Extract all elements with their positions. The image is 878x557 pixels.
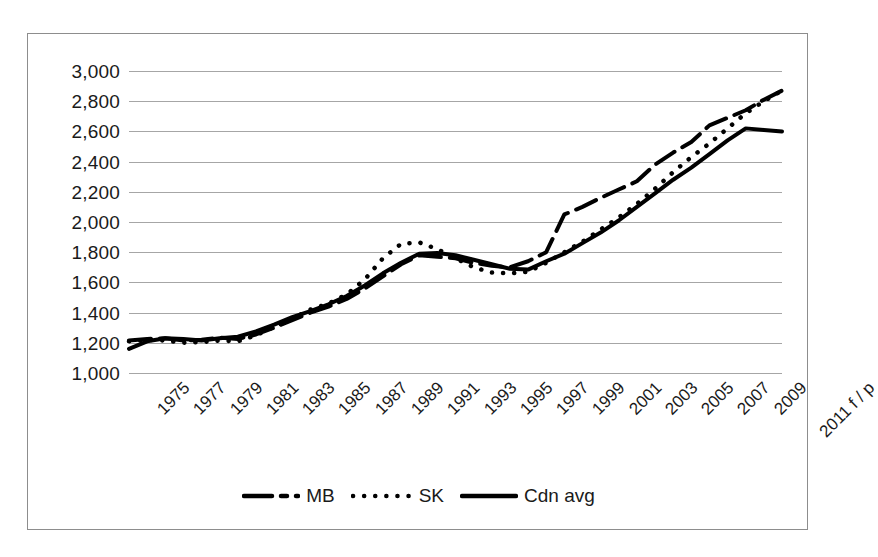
legend-label: SK [419, 486, 444, 505]
x-axis-tick-label: 1993 [481, 379, 520, 418]
legend-item-mb[interactable]: MB [242, 486, 335, 505]
series-lines [129, 71, 782, 373]
x-axis-tick-label: 2001 [626, 379, 665, 418]
x-axis-tick-label: 1995 [517, 379, 556, 418]
y-axis-tick-label: 2,000 [71, 213, 120, 232]
y-axis-tick-label: 1,400 [71, 303, 120, 322]
x-axis-tick-label: 2009 [771, 379, 810, 418]
series-line-mb [129, 91, 782, 341]
gridline [129, 373, 782, 374]
x-axis-tick-label: 2011 f / p [816, 379, 877, 440]
legend-label: Cdn avg [524, 486, 595, 505]
x-axis-tick-label: 1991 [444, 379, 483, 418]
plot-area: 3,0002,8002,6002,4002,2002,0001,8001,600… [129, 71, 782, 373]
legend-item-sk[interactable]: SK [351, 486, 444, 505]
legend-swatch-dashed [242, 491, 300, 501]
x-axis-tick-label: 1999 [589, 379, 628, 418]
x-axis-tick-label: 1989 [408, 379, 447, 418]
x-axis-tick-label: 1983 [299, 379, 338, 418]
legend-swatch-solid [460, 491, 518, 501]
x-axis-tick-label: 2007 [735, 379, 774, 418]
x-axis-tick-label: 1979 [227, 379, 266, 418]
chart-frame: 3,0002,8002,6002,4002,2002,0001,8001,600… [27, 33, 808, 530]
y-axis-tick-label: 2,400 [71, 152, 120, 171]
y-axis-tick-label: 1,600 [71, 273, 120, 292]
series-line-sk [129, 91, 782, 343]
y-axis-tick-label: 1,800 [71, 243, 120, 262]
legend-swatch-dotted [351, 491, 413, 501]
legend-item-cdn-avg[interactable]: Cdn avg [460, 486, 595, 505]
x-axis-tick-label: 1975 [154, 379, 193, 418]
x-axis-tick-label: 1997 [553, 379, 592, 418]
x-axis-tick-label: 1987 [372, 379, 411, 418]
y-axis-tick-label: 1,200 [71, 333, 120, 352]
chart-legend: MBSKCdn avg [28, 486, 809, 505]
legend-label: MB [306, 486, 335, 505]
x-axis-tick-label: 2003 [662, 379, 701, 418]
y-axis-tick-label: 2,600 [71, 122, 120, 141]
x-axis-tick-label: 1985 [335, 379, 374, 418]
series-line-cdn-avg [129, 128, 782, 348]
y-axis-tick-label: 2,200 [71, 182, 120, 201]
x-axis-tick-label: 2005 [698, 379, 737, 418]
y-axis-tick-label: 2,800 [71, 92, 120, 111]
y-axis-tick-label: 1,000 [71, 364, 120, 383]
x-axis-tick-label: 1981 [263, 379, 302, 418]
y-axis-tick-label: 3,000 [71, 62, 120, 81]
x-axis-tick-label: 1977 [190, 379, 229, 418]
